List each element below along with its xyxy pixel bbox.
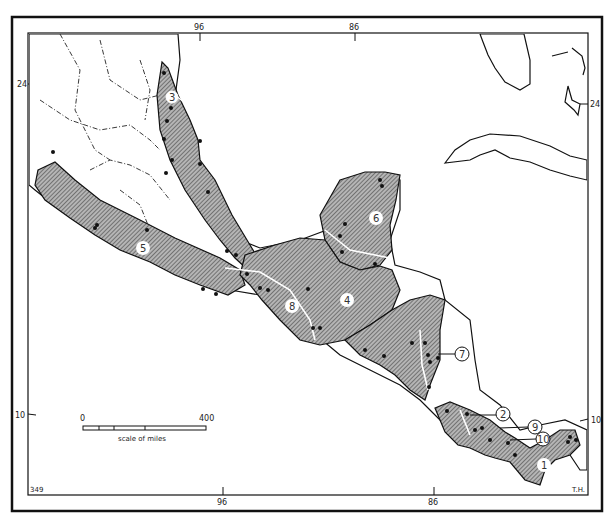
cuba-land bbox=[445, 134, 587, 180]
zone-label-3: 3 bbox=[169, 92, 175, 103]
author-initials: T.H. bbox=[571, 486, 585, 494]
bahamas bbox=[552, 48, 585, 115]
zone-label-5: 5 bbox=[140, 243, 146, 254]
svg-text:24: 24 bbox=[590, 100, 600, 109]
zone-label-4: 4 bbox=[344, 295, 350, 306]
svg-text:24: 24 bbox=[17, 80, 27, 89]
scale-bar: 0 400 scale of miles bbox=[80, 414, 214, 443]
svg-text:96: 96 bbox=[217, 498, 227, 507]
zone-label-1: 1 bbox=[541, 460, 547, 471]
distribution-map: 96 86 96 86 24 10 24 10 bbox=[0, 0, 616, 522]
zone-label-6: 6 bbox=[373, 213, 379, 224]
svg-text:86: 86 bbox=[428, 498, 438, 507]
zone-label-2: 2 bbox=[500, 409, 506, 420]
figure-number: 349 bbox=[30, 486, 43, 494]
svg-text:10: 10 bbox=[15, 411, 25, 420]
svg-text:10: 10 bbox=[591, 416, 601, 425]
svg-text:scale of miles: scale of miles bbox=[118, 435, 166, 443]
florida-land bbox=[480, 34, 530, 90]
zone-label-9: 9 bbox=[532, 422, 538, 433]
zone-label-8: 8 bbox=[289, 301, 295, 312]
svg-text:86: 86 bbox=[349, 23, 359, 32]
svg-text:400: 400 bbox=[199, 414, 214, 423]
zone-label-10: 10 bbox=[537, 434, 550, 445]
svg-text:96: 96 bbox=[194, 23, 204, 32]
svg-text:0: 0 bbox=[80, 414, 85, 423]
zone-label-7: 7 bbox=[459, 349, 465, 360]
